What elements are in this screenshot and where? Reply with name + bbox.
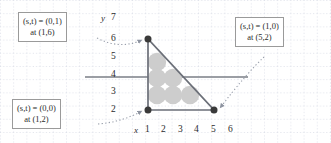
sample-dot [164,69,182,87]
y-tick-5: 5 [111,51,116,61]
callout-bottom-left: (s,t) = (0,0) at (1,2) [12,99,61,129]
figure-container: (s,t) = (0,1) at (1,6) (s,t) = (1,0) at … [0,0,331,143]
y-tick-4: 4 [111,69,116,79]
callout-top-left-line1: (s,t) = (0,1) [23,16,62,27]
vertex-dot-bottom-left [145,107,152,114]
x-tick-3: 3 [178,124,183,134]
callout-bottom-left-line1: (s,t) = (0,0) [17,103,56,114]
x-tick-2: 2 [161,124,166,134]
y-axis-label: y [101,13,105,23]
x-tick-6: 6 [228,124,233,134]
vertex-dot-bottom-right [211,107,218,114]
callout-top-right-line2: at (5,2) [240,32,279,43]
y-tick-7: 7 [111,12,116,22]
vertex-dot-top [145,36,152,43]
callout-top-left: (s,t) = (0,1) at (1,6) [18,12,67,42]
sample-dot [181,86,199,104]
callout-top-right: (s,t) = (1,0) at (5,2) [235,17,284,47]
x-tick-1: 1 [145,124,150,134]
x-tick-4: 4 [194,124,199,134]
sample-dot [164,86,182,104]
callout-top-left-line2: at (1,6) [23,27,62,38]
sample-dot [148,69,166,87]
y-tick-3: 3 [111,86,116,96]
x-tick-5: 5 [211,124,216,134]
sample-dot [148,86,166,104]
y-tick-6: 6 [111,33,116,43]
callout-top-right-line1: (s,t) = (1,0) [240,21,279,32]
x-axis-label: x [134,125,138,135]
y-tick-2: 2 [111,104,116,114]
callout-bottom-left-line2: at (1,2) [17,114,56,125]
